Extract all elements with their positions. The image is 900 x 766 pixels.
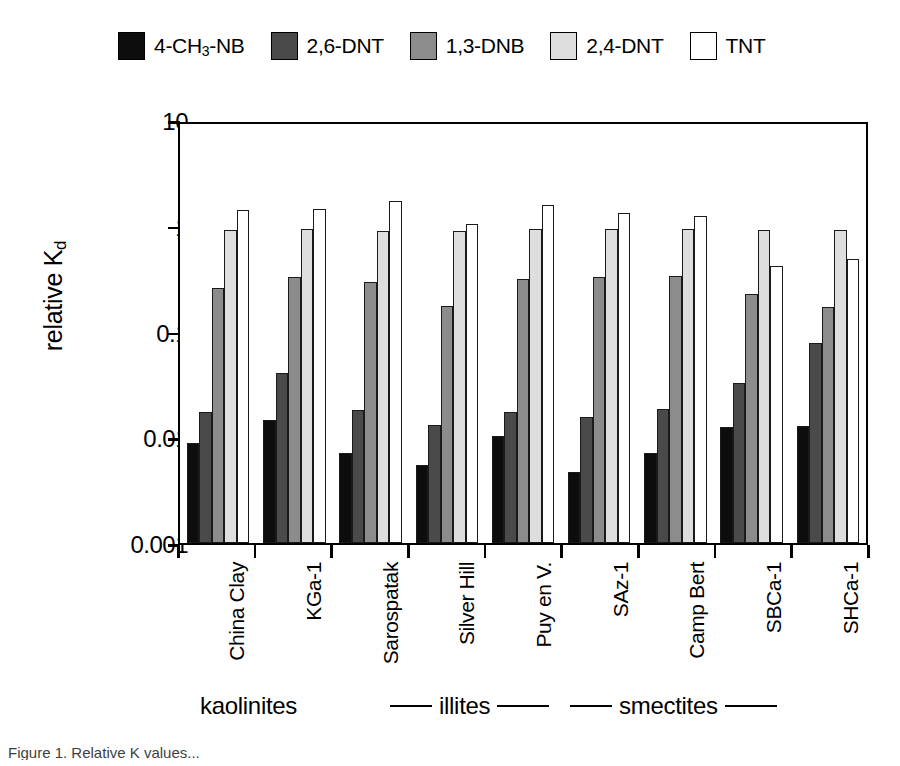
bar[interactable]: [237, 210, 250, 543]
bar-group: [714, 124, 790, 543]
bar[interactable]: [416, 465, 429, 543]
bar[interactable]: [618, 213, 631, 543]
y-axis-title: relative Kd: [39, 186, 71, 406]
legend-item[interactable]: 2,4-DNT: [550, 32, 663, 60]
bar[interactable]: [542, 205, 555, 543]
bar-group: [485, 124, 561, 543]
band-rule-left: [570, 705, 612, 708]
bar[interactable]: [568, 472, 581, 543]
x-category-label: Puy en V.: [532, 562, 556, 712]
x-category-label: SAz-1: [609, 562, 633, 712]
legend-item[interactable]: 2,6-DNT: [271, 32, 384, 60]
bar[interactable]: [758, 230, 771, 543]
bar[interactable]: [657, 409, 670, 543]
legend-swatch: [118, 32, 145, 60]
legend-item[interactable]: 1,3-DNB: [410, 32, 524, 60]
bar[interactable]: [224, 230, 237, 543]
bar[interactable]: [492, 436, 505, 543]
bar[interactable]: [605, 229, 618, 543]
bar[interactable]: [377, 231, 390, 543]
band-rule-right: [497, 705, 549, 708]
bar[interactable]: [682, 229, 695, 543]
bar[interactable]: [313, 209, 326, 543]
x-tick-mark: [714, 545, 717, 558]
legend-item[interactable]: 4-CH3-NB: [118, 32, 245, 60]
bar[interactable]: [352, 410, 365, 543]
bar[interactable]: [809, 343, 822, 543]
bar[interactable]: [263, 420, 276, 543]
bar[interactable]: [847, 259, 860, 544]
bar[interactable]: [529, 229, 542, 543]
group-band: smectites: [570, 692, 777, 720]
bar[interactable]: [339, 453, 352, 543]
bar[interactable]: [720, 427, 733, 543]
legend-label: 1,3-DNB: [446, 34, 524, 58]
figure-caption: Figure 1. Relative K values...: [8, 744, 628, 760]
bar[interactable]: [669, 276, 682, 543]
x-tick-mark: [177, 545, 180, 558]
legend-swatch: [410, 32, 437, 60]
legend-swatch: [690, 32, 717, 60]
bar-group: [256, 124, 332, 543]
band-rule-left: [390, 705, 432, 708]
bar[interactable]: [288, 277, 301, 543]
bar[interactable]: [187, 443, 200, 543]
x-category-label: KGa-1: [302, 562, 326, 712]
x-tick-mark: [790, 545, 793, 558]
bar[interactable]: [276, 373, 289, 543]
bar[interactable]: [212, 288, 225, 543]
chart-legend: 4-CH3-NB2,6-DNT1,3-DNB2,4-DNTTNT: [118, 26, 878, 66]
bar[interactable]: [822, 307, 835, 543]
x-category-label: Sarospatak: [379, 562, 403, 712]
bar[interactable]: [644, 453, 657, 543]
x-tick-mark: [330, 545, 333, 558]
bar[interactable]: [733, 383, 746, 543]
legend-label: 2,4-DNT: [586, 34, 663, 58]
band-rule-right: [725, 705, 777, 708]
legend-label: TNT: [726, 34, 766, 58]
band-label: illites: [439, 692, 490, 720]
bar[interactable]: [428, 425, 441, 543]
bars-layer: [180, 124, 866, 543]
bar[interactable]: [745, 294, 758, 543]
x-category-label: SBCa-1: [762, 562, 786, 712]
bar[interactable]: [301, 229, 314, 543]
bar[interactable]: [517, 279, 530, 543]
bar-group: [637, 124, 713, 543]
legend-swatch: [550, 32, 577, 60]
legend-label: 2,6-DNT: [307, 34, 384, 58]
bar[interactable]: [770, 266, 783, 543]
bar[interactable]: [834, 230, 847, 543]
x-category-label: SHCa-1: [839, 562, 863, 712]
x-category-label: China Clay: [225, 562, 249, 712]
legend-swatch: [271, 32, 298, 60]
bar-group: [561, 124, 637, 543]
bar-group: [180, 124, 256, 543]
bar[interactable]: [593, 277, 606, 543]
group-band: illites: [390, 692, 549, 720]
bar[interactable]: [199, 412, 212, 543]
bar[interactable]: [364, 282, 377, 543]
bar[interactable]: [453, 231, 466, 543]
bar[interactable]: [389, 201, 402, 543]
x-category-label: Camp Bert: [685, 562, 709, 712]
x-tick-mark: [867, 545, 870, 558]
bar-group: [332, 124, 408, 543]
legend-item[interactable]: TNT: [690, 32, 766, 60]
bar[interactable]: [466, 224, 479, 543]
x-tick-mark: [560, 545, 563, 558]
band-label: kaolinites: [200, 692, 297, 720]
plot-area: [178, 122, 868, 545]
x-tick-mark: [637, 545, 640, 558]
bar[interactable]: [694, 216, 707, 543]
group-band: kaolinites: [200, 692, 297, 720]
legend-label: 4-CH3-NB: [154, 34, 245, 59]
x-tick-mark: [484, 545, 487, 558]
bar[interactable]: [797, 426, 810, 543]
x-tick-mark: [407, 545, 410, 558]
bar[interactable]: [441, 306, 454, 543]
bar-group: [409, 124, 485, 543]
bar-group: [790, 124, 866, 543]
bar[interactable]: [504, 412, 517, 543]
bar[interactable]: [580, 417, 593, 543]
